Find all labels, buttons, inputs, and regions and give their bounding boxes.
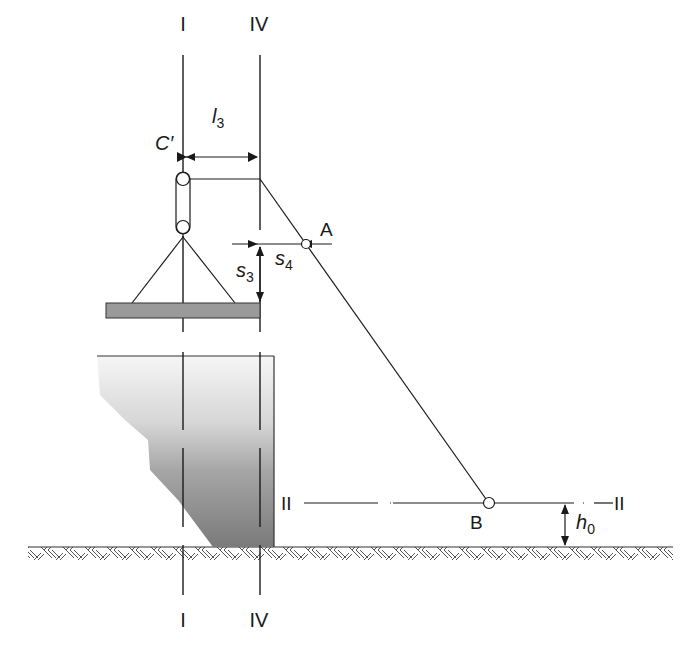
s4-subscript: 4 [285,257,293,273]
axis-label-ii-left: II [281,494,292,513]
label-point-a: A [320,220,333,239]
s3-dimension [256,246,264,302]
label-s4: s4 [275,248,293,268]
pulley-c-prime [176,172,190,234]
s3-subscript: 3 [246,269,254,285]
label-point-b: B [470,513,483,532]
point-b-marker [484,498,495,509]
label-l3: l3 [212,106,224,126]
h0-symbol: h [576,511,587,533]
axis-label-iv-top: IV [250,14,269,34]
axis-label-ii-right: II [614,494,625,513]
diagram-canvas: I IV I IV II II C′ A B l3 s3 s4 h0 [0,0,697,658]
axis-label-iv-bottom: IV [250,610,269,630]
s4-symbol: s [275,247,285,269]
s3-symbol: s [236,259,246,281]
axis-label-i-top: I [180,14,186,34]
schematic-drawing [0,0,697,658]
l3-subscript: 3 [216,115,224,131]
label-h0: h0 [576,512,595,532]
h0-subscript: 0 [587,521,595,537]
load-slab [106,303,260,318]
ground-hatch [28,547,673,560]
label-s3: s3 [236,260,254,280]
wall-block [97,356,274,547]
axis-label-i-bottom: I [180,610,186,630]
label-pulley-c-prime: C′ [155,133,173,153]
point-a-marker [302,240,311,249]
h0-dimension [561,504,569,546]
